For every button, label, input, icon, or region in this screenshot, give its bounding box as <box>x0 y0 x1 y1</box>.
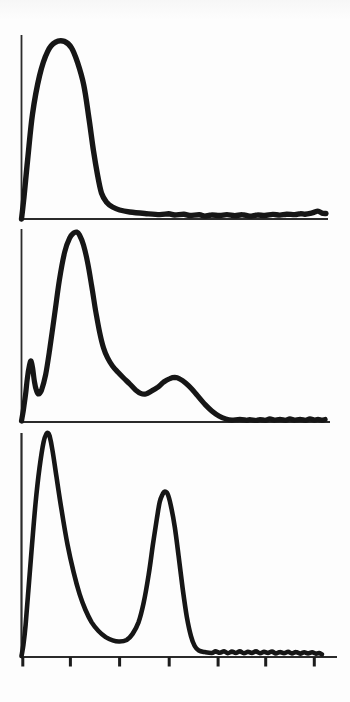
panel-bottom-x-ticks <box>23 657 315 667</box>
panel-middle-axes <box>22 229 331 422</box>
panel-bottom-curve <box>22 433 322 656</box>
panel-top-axes <box>22 35 329 219</box>
panel-top-curve <box>22 41 326 219</box>
three-panel-histogram-figure <box>0 0 350 702</box>
scanned-figure <box>0 0 350 702</box>
panel-top <box>22 35 329 219</box>
panel-middle-curve <box>22 232 326 421</box>
panel-bottom <box>22 433 338 667</box>
panel-middle <box>22 229 331 422</box>
